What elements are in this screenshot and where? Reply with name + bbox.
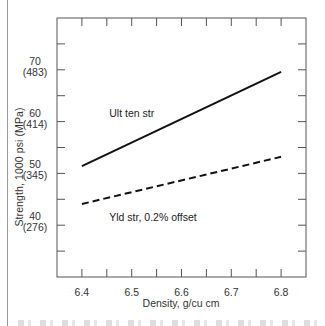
y-tick-label: 70(483): [15, 56, 55, 78]
y-tick-mpa: (483): [15, 67, 55, 78]
axis-ticks: [57, 18, 306, 277]
yield-strength-line: [82, 157, 281, 204]
axes-frame: [57, 18, 306, 277]
cropped-caption-fragment: [18, 320, 318, 326]
x-tick-label: 6.7: [224, 286, 239, 298]
y-axis-label: Strength, 1000 psi (MPa): [13, 107, 25, 226]
yield-strength-label: Yld str, 0.2% offset: [109, 211, 196, 223]
x-tick-label: 6.8: [274, 286, 289, 298]
x-tick-label: 6.4: [75, 286, 90, 298]
x-axis-label: Density, g/cu cm: [143, 297, 220, 309]
x-tick-label: 6.5: [124, 286, 139, 298]
figure: 70(483)60(414)50(345)40(276) 6.46.56.66.…: [0, 0, 325, 326]
plot-frame: [57, 18, 306, 277]
data-lines: [82, 72, 281, 204]
ultimate-tensile-strength-label: Ult ten str: [109, 107, 154, 119]
